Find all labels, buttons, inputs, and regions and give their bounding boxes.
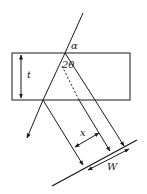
exit-ray-bottom: [43, 100, 83, 165]
thin-plate-diagram: [0, 0, 147, 194]
thickness-label: t: [27, 70, 31, 80]
spacing-x-arrow: [75, 133, 99, 147]
two-theta-label: 2θ: [62, 60, 74, 70]
screen-line: [52, 140, 137, 186]
exit-ray-middle: [79, 100, 110, 151]
exit-ray-left: [27, 100, 43, 138]
alpha-label: α: [71, 41, 78, 51]
spacing-label: x: [80, 128, 86, 138]
exit-ray-right: [95, 100, 124, 146]
width-label: W: [107, 162, 117, 172]
